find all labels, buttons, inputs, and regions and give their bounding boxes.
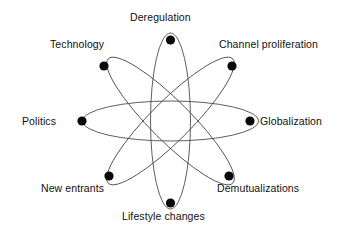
node-technology[interactable] bbox=[99, 61, 108, 70]
node-deregulation[interactable] bbox=[166, 35, 175, 44]
orbit-horizontal bbox=[83, 101, 259, 141]
node-channel-proliferation[interactable] bbox=[227, 61, 236, 70]
node-label-new-entrants: New entrants bbox=[41, 182, 104, 194]
node-label-channel-proliferation: Channel proliferation bbox=[219, 38, 318, 50]
node-globalization[interactable] bbox=[245, 116, 254, 125]
node-new-entrants[interactable] bbox=[104, 171, 113, 180]
node-politics[interactable] bbox=[77, 116, 86, 125]
node-label-globalization: Globalization bbox=[260, 115, 322, 127]
orbit-diagonal-up bbox=[94, 45, 247, 198]
node-label-demutualizations: Demutualizations bbox=[217, 182, 299, 194]
node-lifestyle-changes[interactable] bbox=[166, 198, 175, 207]
node-demutualizations[interactable] bbox=[224, 171, 233, 180]
orbit-vertical bbox=[151, 33, 191, 209]
diagram-canvas: DeregulationChannel proliferationGlobali… bbox=[0, 0, 344, 232]
node-label-lifestyle-changes: Lifestyle changes bbox=[122, 210, 205, 222]
node-label-deregulation: Deregulation bbox=[130, 11, 191, 23]
node-label-technology: Technology bbox=[50, 38, 104, 50]
node-label-politics: Politics bbox=[22, 115, 56, 127]
orbit-diagonal-down bbox=[94, 45, 247, 198]
